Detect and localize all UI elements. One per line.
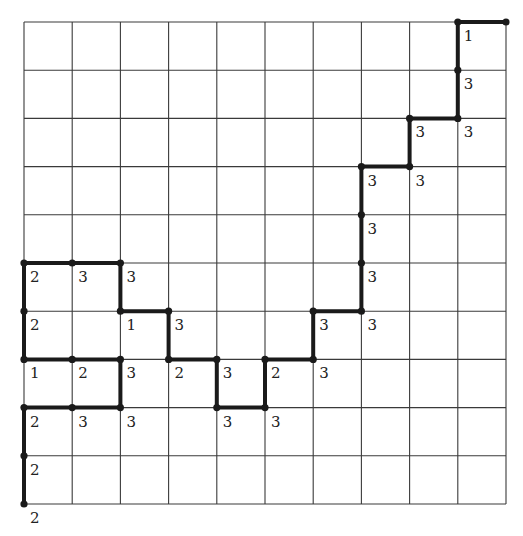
vertex-label: 3 bbox=[319, 316, 329, 334]
vertex-label: 3 bbox=[367, 220, 377, 238]
path-vertex bbox=[117, 308, 124, 315]
path-vertex bbox=[358, 211, 365, 218]
path-vertex bbox=[310, 356, 317, 363]
vertex-label: 3 bbox=[464, 75, 474, 93]
path-vertex bbox=[358, 308, 365, 315]
path-vertex bbox=[502, 18, 509, 25]
path-vertex bbox=[20, 404, 27, 411]
vertex-labels: 222331232323332133323333333331 bbox=[30, 27, 473, 527]
path-vertex bbox=[117, 356, 124, 363]
path-vertex bbox=[165, 308, 172, 315]
vertex-label: 3 bbox=[367, 316, 377, 334]
vertex-label: 2 bbox=[30, 268, 40, 286]
vertex-label: 3 bbox=[126, 413, 136, 431]
vertex-label: 2 bbox=[30, 461, 40, 479]
vertex-label: 3 bbox=[126, 364, 136, 382]
path-vertex bbox=[406, 115, 413, 122]
path-vertex bbox=[261, 404, 268, 411]
vertex-label: 2 bbox=[78, 364, 88, 382]
vertex-label: 3 bbox=[464, 123, 474, 141]
vertex-label: 3 bbox=[78, 413, 88, 431]
path-vertex bbox=[454, 67, 461, 74]
path-vertex bbox=[454, 115, 461, 122]
path-vertex bbox=[261, 356, 268, 363]
path-vertex bbox=[406, 163, 413, 170]
path-vertex bbox=[20, 356, 27, 363]
path-vertex bbox=[117, 259, 124, 266]
vertex-label: 2 bbox=[30, 316, 40, 334]
path-vertex bbox=[213, 356, 220, 363]
vertex-label: 3 bbox=[78, 268, 88, 286]
path-vertex bbox=[310, 308, 317, 315]
path-vertex bbox=[165, 356, 172, 363]
path-vertex bbox=[213, 404, 220, 411]
path-vertex bbox=[454, 18, 461, 25]
vertex-label: 3 bbox=[223, 364, 233, 382]
vertex-label: 3 bbox=[271, 413, 281, 431]
vertex-label: 1 bbox=[30, 364, 40, 382]
vertex-label: 1 bbox=[464, 27, 474, 45]
vertex-label: 2 bbox=[30, 413, 40, 431]
path-vertex bbox=[358, 259, 365, 266]
vertex-label: 3 bbox=[223, 413, 233, 431]
vertex-label: 3 bbox=[416, 123, 426, 141]
vertex-label: 2 bbox=[175, 364, 185, 382]
path-vertex bbox=[69, 356, 76, 363]
vertex-label: 3 bbox=[367, 172, 377, 190]
path-vertex bbox=[358, 163, 365, 170]
vertex-label: 3 bbox=[126, 268, 136, 286]
vertex-label: 3 bbox=[416, 172, 426, 190]
path-vertex bbox=[20, 308, 27, 315]
path-vertex bbox=[69, 404, 76, 411]
path-vertex bbox=[117, 404, 124, 411]
vertex-label: 1 bbox=[126, 316, 136, 334]
vertex-label: 3 bbox=[367, 268, 377, 286]
path-vertex bbox=[69, 259, 76, 266]
vertex-label: 2 bbox=[30, 509, 40, 527]
vertex-label: 3 bbox=[175, 316, 185, 334]
path-vertex bbox=[20, 500, 27, 507]
vertex-label: 2 bbox=[271, 364, 281, 382]
lattice-path-diagram: 222331232323332133323333333331 bbox=[0, 0, 523, 536]
path-vertex bbox=[20, 452, 27, 459]
vertex-label: 3 bbox=[319, 364, 329, 382]
path-vertex bbox=[20, 259, 27, 266]
